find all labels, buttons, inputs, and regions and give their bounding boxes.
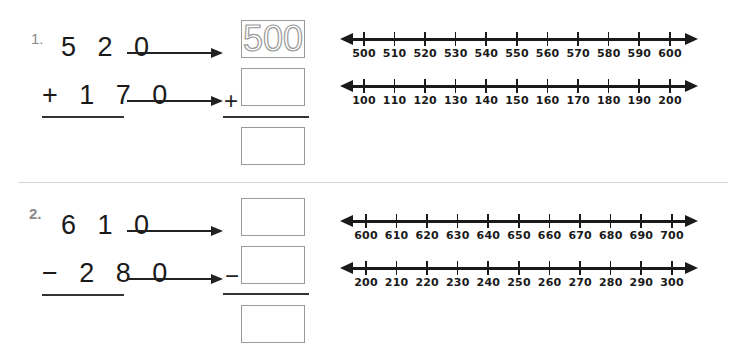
tick-label: 670 (563, 229, 597, 242)
tick-label: 280 (594, 276, 628, 289)
tick-label: 260 (533, 276, 567, 289)
addend-top: 5 2 0 (61, 34, 156, 61)
tick-label: 210 (380, 276, 414, 289)
problem-number: 1. (31, 30, 44, 47)
right-arrow-icon (685, 215, 698, 227)
tick-label: 130 (439, 94, 473, 107)
tick-label: 680 (594, 229, 628, 242)
left-arrow-icon (340, 215, 353, 227)
section-divider (18, 182, 728, 183)
rounded-bottom-box[interactable] (241, 68, 305, 106)
tick-label: 140 (469, 94, 503, 107)
tick-label: 580 (592, 47, 626, 60)
tick-label: 110 (378, 94, 412, 107)
tick-label: 690 (624, 229, 658, 242)
answer-underline (42, 116, 124, 118)
right-arrow-icon (685, 80, 698, 92)
number-line-2a: 600 610 620 630 640 650 660 670 680 690 … (340, 220, 698, 260)
tick-label: 660 (533, 229, 567, 242)
tick-label: 540 (469, 47, 503, 60)
tick-label: 180 (592, 94, 626, 107)
tick-label: 590 (622, 47, 656, 60)
estimate-answer-box[interactable] (241, 127, 305, 165)
tick-label: 700 (655, 229, 689, 242)
tick-label: 520 (408, 47, 442, 60)
estimate-answer-box[interactable] (241, 305, 305, 343)
tick-label: 630 (441, 229, 475, 242)
tick-label: 570 (561, 47, 595, 60)
arrow-icon (127, 278, 221, 280)
tick-label: 500 (347, 47, 381, 60)
tick-label: 550 (500, 47, 534, 60)
left-arrow-icon (340, 262, 353, 274)
tick-label: 150 (500, 94, 534, 107)
tick-label: 600 (653, 47, 687, 60)
tick-label: 610 (380, 229, 414, 242)
tick-label: 250 (502, 276, 536, 289)
difference-line (223, 293, 309, 295)
problem-number: 2. (29, 205, 42, 222)
arrow-icon (127, 100, 221, 102)
tick-label: 160 (531, 94, 565, 107)
tick-label: 190 (622, 94, 656, 107)
tick-label: 300 (655, 276, 689, 289)
plus-sign: + (224, 89, 238, 113)
tick-label: 510 (378, 47, 412, 60)
left-arrow-icon (340, 33, 353, 45)
tick-label: 120 (408, 94, 442, 107)
minus-sign: − (225, 264, 239, 288)
tick-label: 170 (561, 94, 595, 107)
right-arrow-icon (685, 262, 698, 274)
arrow-icon (127, 52, 221, 54)
number-line-1a: 500 510 520 530 540 550 560 570 580 590 … (340, 38, 698, 78)
tick-label: 200 (653, 94, 687, 107)
tick-label: 620 (410, 229, 444, 242)
tick-label: 600 (349, 229, 383, 242)
tick-label: 530 (439, 47, 473, 60)
rounded-bottom-box[interactable] (241, 246, 305, 284)
tick-label: 270 (563, 276, 597, 289)
tick-label: 240 (471, 276, 505, 289)
minuend: 6 1 0 (61, 212, 156, 239)
left-arrow-icon (340, 80, 353, 92)
tick-label: 290 (624, 276, 658, 289)
sum-line (223, 116, 309, 118)
right-arrow-icon (685, 33, 698, 45)
number-line-1b: 100 110 120 130 140 150 160 170 180 190 … (340, 85, 698, 125)
tick-label: 650 (502, 229, 536, 242)
tick-label: 200 (349, 276, 383, 289)
arrow-icon (127, 230, 221, 232)
tick-label: 560 (531, 47, 565, 60)
tick-label: 640 (471, 229, 505, 242)
rounded-top-box[interactable]: 500 (241, 20, 305, 58)
tick-label: 220 (410, 276, 444, 289)
traced-answer: 500 (242, 19, 304, 59)
subtrahend: − 2 8 0 (42, 260, 174, 287)
tick-label: 230 (441, 276, 475, 289)
rounded-top-box[interactable] (241, 198, 305, 236)
tick-label: 100 (347, 94, 381, 107)
addend-bottom: + 1 7 0 (42, 82, 174, 109)
number-line-2b: 200 210 220 230 240 250 260 270 280 290 … (340, 267, 698, 307)
answer-underline (42, 294, 124, 296)
